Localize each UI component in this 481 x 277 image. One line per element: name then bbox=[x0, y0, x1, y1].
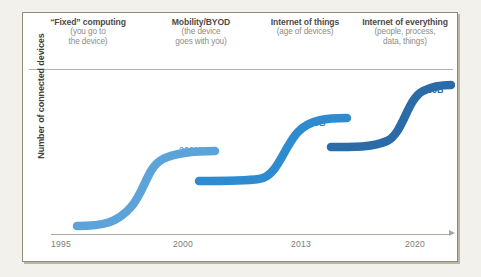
x-axis-arrow-icon bbox=[449, 230, 455, 236]
x-tick-2020: 2020 bbox=[405, 239, 425, 249]
era-subtitle-line: (the device bbox=[149, 27, 253, 37]
value-label-10b: 10B bbox=[309, 118, 326, 128]
era-subtitle-line: (age of devices) bbox=[255, 27, 355, 37]
value-label-200m: 200M bbox=[179, 145, 202, 155]
chart-root: “Fixed” computing (you go to the device)… bbox=[0, 0, 481, 277]
era-title: Internet of things bbox=[255, 17, 355, 27]
era-title: “Fixed” computing bbox=[29, 17, 147, 27]
era-subtitle-line: the device) bbox=[29, 37, 147, 47]
x-tick-2000: 2000 bbox=[173, 239, 193, 249]
era-column-internet-of-things: Internet of things (age of devices) bbox=[255, 17, 355, 37]
era-column-mobility-byod: Mobility/BYOD (the device goes with you) bbox=[149, 17, 253, 47]
era-header-row: “Fixed” computing (you go to the device)… bbox=[23, 13, 457, 69]
x-tick-1995: 1995 bbox=[51, 239, 71, 249]
era-title: Mobility/BYOD bbox=[149, 17, 253, 27]
era-subtitle-line: data, things) bbox=[353, 37, 457, 47]
chart-card: “Fixed” computing (you go to the device)… bbox=[22, 12, 458, 262]
era-subtitle-line: goes with you) bbox=[149, 37, 253, 47]
header-divider-rule bbox=[29, 69, 453, 70]
plot-area bbox=[51, 71, 455, 231]
x-axis-line bbox=[51, 234, 451, 235]
era-column-internet-of-everything: Internet of everything (people, process,… bbox=[353, 17, 457, 47]
y-axis-label: Number of connected devices bbox=[36, 16, 46, 176]
x-tick-2013: 2013 bbox=[291, 239, 311, 249]
era-subtitle-line: (people, process, bbox=[353, 27, 457, 37]
era-title: Internet of everything bbox=[353, 17, 457, 27]
value-label-50b: 50B bbox=[427, 85, 444, 95]
era-column-fixed-computing: “Fixed” computing (you go to the device) bbox=[29, 17, 147, 47]
curve-fixed-computing bbox=[77, 151, 215, 226]
era-subtitle-line: (you go to bbox=[29, 27, 147, 37]
